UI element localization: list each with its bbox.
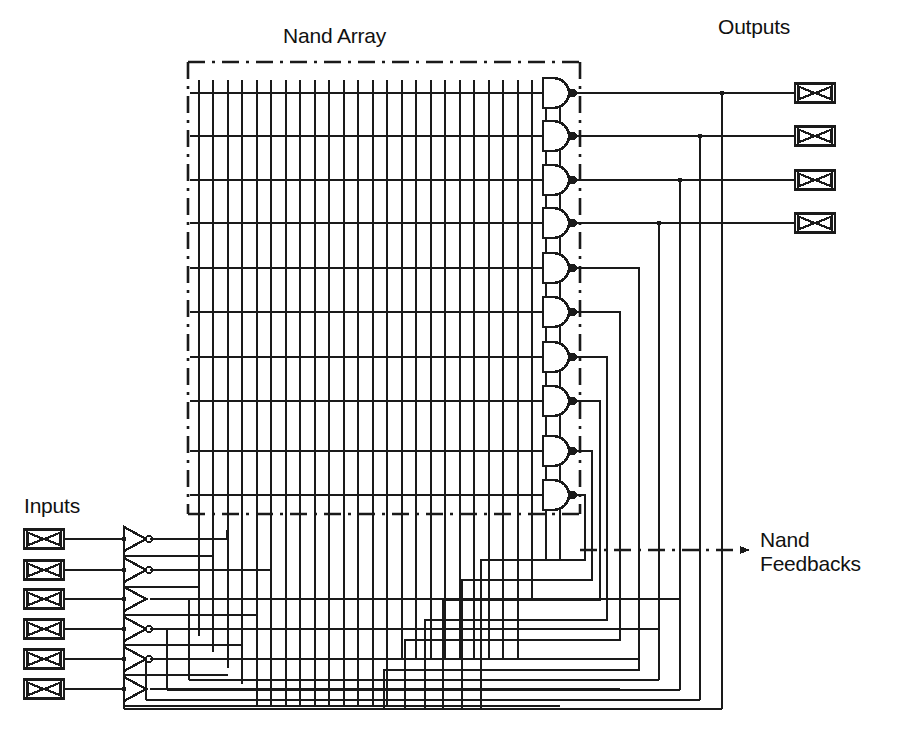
- nand-array-schematic: [0, 0, 911, 731]
- feedback-arrowhead: [740, 546, 750, 554]
- output-feedback-returns: [124, 680, 722, 709]
- output-wires: [577, 93, 795, 223]
- label-nand-feedbacks: Nand Feedbacks: [760, 528, 861, 576]
- diagram-canvas: Nand Array Outputs Inputs Nand Feedbacks: [0, 0, 911, 731]
- array-column-lines: [199, 80, 560, 706]
- input-pads: [24, 530, 64, 699]
- label-outputs: Outputs: [718, 15, 790, 39]
- output-pads: [795, 84, 835, 233]
- nand-array-boundary: [188, 62, 580, 514]
- label-nand-array: Nand Array: [283, 24, 386, 48]
- output-feedback-verticals: [659, 93, 722, 709]
- input-wires: [64, 539, 124, 689]
- label-inputs: Inputs: [24, 494, 80, 518]
- nand-feedback-wires: [384, 268, 639, 709]
